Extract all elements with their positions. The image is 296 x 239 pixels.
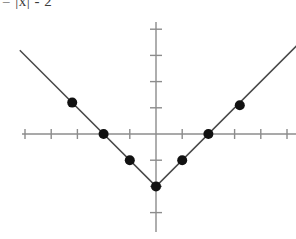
graph-svg xyxy=(0,0,296,239)
data-point xyxy=(203,129,213,139)
graph-plot xyxy=(0,0,296,239)
data-point xyxy=(151,181,161,191)
absolute-value-curve xyxy=(20,45,296,187)
data-point xyxy=(177,155,187,165)
data-point xyxy=(99,129,109,139)
data-point xyxy=(235,100,245,110)
axes-group xyxy=(22,22,296,232)
data-point xyxy=(67,98,77,108)
data-point xyxy=(125,155,135,165)
